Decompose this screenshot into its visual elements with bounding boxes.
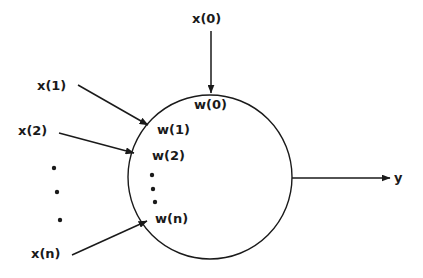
- input-label-x1: x(1): [37, 79, 66, 92]
- input-arrow-xn: [72, 221, 147, 255]
- input-arrow-x1: [78, 85, 148, 125]
- input-label-x2: x(2): [18, 124, 47, 137]
- ellipsis-dot-inner: [151, 187, 155, 191]
- output-label-y: y: [394, 171, 402, 184]
- input-label-x0: x(0): [192, 12, 221, 25]
- ellipsis-dot-outer: [52, 166, 56, 170]
- input-label-xn: x(n): [31, 247, 61, 260]
- ellipsis-dot-outer: [55, 190, 59, 194]
- weight-label-w2: w(2): [152, 149, 185, 162]
- weight-label-wn: w(n): [155, 212, 188, 225]
- weight-label-w0: w(0): [194, 98, 227, 111]
- ellipsis-dot-inner: [153, 200, 157, 204]
- input-arrow-x2: [59, 133, 134, 153]
- weight-label-w1: w(1): [157, 123, 190, 136]
- neuron-diagram-canvas: [0, 0, 423, 278]
- ellipsis-dot-inner: [150, 173, 154, 177]
- neuron-diagram: x(0) x(1) x(2) x(n) w(0) w(1) w(2) w(n) …: [0, 0, 423, 278]
- ellipsis-dot-outer: [58, 218, 62, 222]
